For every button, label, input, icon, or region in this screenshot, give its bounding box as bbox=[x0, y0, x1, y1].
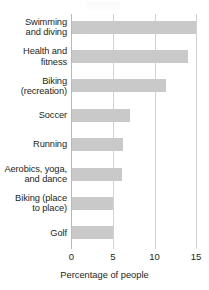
category-label: Biking(recreation) bbox=[0, 76, 67, 97]
category-label-line: Health and bbox=[0, 46, 67, 56]
x-axis-tick-labels: 051015 bbox=[0, 251, 209, 265]
category-label-line: and diving bbox=[0, 27, 67, 37]
x-tick-label-5: 5 bbox=[110, 251, 115, 263]
category-axis-labels: Swimmingand divingHealth andfitnessBikin… bbox=[0, 14, 67, 249]
category-label-line: Soccer bbox=[0, 110, 67, 120]
category-label: Soccer bbox=[0, 110, 67, 120]
category-label: Biking (placeto place) bbox=[0, 193, 67, 214]
category-label-line: fitness bbox=[0, 57, 67, 67]
category-label: Golf bbox=[0, 228, 67, 238]
category-label-line: Running bbox=[0, 139, 67, 149]
bar bbox=[72, 226, 114, 239]
bar-fill bbox=[72, 138, 123, 151]
bar-fill bbox=[72, 50, 188, 63]
bar bbox=[72, 79, 167, 92]
category-label-line: Swimming bbox=[0, 17, 67, 27]
x-tick-label-15: 15 bbox=[191, 251, 202, 263]
bar-fill bbox=[72, 21, 197, 34]
bar bbox=[72, 197, 114, 210]
bar-fill bbox=[72, 79, 167, 92]
category-label-line: and dance bbox=[0, 174, 67, 184]
bar-fill bbox=[72, 197, 114, 210]
category-label: Running bbox=[0, 139, 67, 149]
bar bbox=[72, 21, 197, 34]
bar-fill bbox=[72, 226, 114, 239]
bar bbox=[72, 168, 123, 181]
category-label-line: Aerobics, yoga, bbox=[0, 164, 67, 174]
bar bbox=[72, 50, 188, 63]
bar-fill bbox=[72, 168, 123, 181]
category-label: Health andfitness bbox=[0, 46, 67, 67]
top-artifact bbox=[86, 1, 120, 10]
category-label: Aerobics, yoga,and dance bbox=[0, 164, 67, 185]
category-label-line: (recreation) bbox=[0, 86, 67, 96]
bar-chart-figure: Swimmingand divingHealth andfitnessBikin… bbox=[0, 0, 209, 290]
category-label-line: Biking (place bbox=[0, 193, 67, 203]
bar bbox=[72, 109, 130, 122]
category-label: Swimmingand diving bbox=[0, 17, 67, 38]
category-label-line: Biking bbox=[0, 76, 67, 86]
plot-area bbox=[72, 14, 197, 249]
bar bbox=[72, 138, 123, 151]
bar-fill bbox=[72, 109, 130, 122]
x-axis-title: Percentage of people bbox=[0, 270, 209, 280]
category-label-line: to place) bbox=[0, 203, 67, 213]
category-label-line: Golf bbox=[0, 228, 67, 238]
x-tick-label-0: 0 bbox=[69, 251, 74, 263]
x-tick-label-10: 10 bbox=[149, 251, 160, 263]
gridline-15 bbox=[196, 14, 197, 249]
